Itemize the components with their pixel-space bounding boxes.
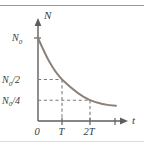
y-axis-label: N <box>43 9 52 21</box>
x-axis-label: t <box>132 114 136 126</box>
y-label-n0: N0 <box>11 32 23 46</box>
decay-curve <box>38 38 116 106</box>
x-label-T: T <box>59 126 66 137</box>
y-label-n0-half: N0/2 <box>1 74 20 88</box>
y-label-n0-quarter: N0/4 <box>1 95 20 109</box>
x-label-2T: 2T <box>84 126 96 137</box>
figure-panel: N t N0 N0/2 N0/4 0 T 2T <box>0 0 144 148</box>
x-label-origin: 0 <box>35 126 41 137</box>
x-axis-arrowhead <box>120 118 128 125</box>
graph-svg: N t N0 N0/2 N0/4 0 T 2T <box>0 8 144 138</box>
exponential-decay-graph: N t N0 N0/2 N0/4 0 T 2T <box>0 8 144 138</box>
y-axis-arrowhead <box>35 18 42 26</box>
top-divider <box>0 5 144 6</box>
bottom-divider <box>0 141 144 142</box>
